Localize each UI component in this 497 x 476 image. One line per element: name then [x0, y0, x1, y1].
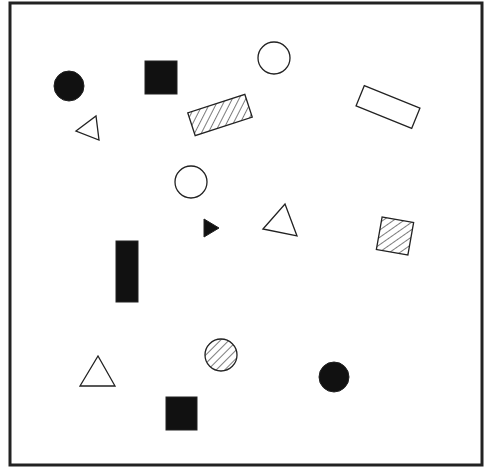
- circle-hatched-1-shape: [205, 339, 237, 371]
- rect-outline-1-shape: [356, 86, 420, 129]
- square-solid-2-shape: [166, 397, 197, 430]
- rect-solid-tall-1-shape: [116, 241, 138, 302]
- rect-hatched-1-shape: [188, 94, 252, 135]
- circle-solid-1-shape: [54, 71, 84, 101]
- circle-solid-2-shape: [319, 362, 349, 392]
- circle-outline-2-shape: [175, 166, 207, 198]
- triangle-solid-1-shape: [204, 219, 219, 237]
- square-hatched-1-shape: [376, 217, 413, 255]
- triangle-outline-3-shape: [80, 356, 115, 386]
- square-solid-1-shape: [145, 61, 177, 94]
- shapes-layer: [54, 42, 420, 430]
- shapes-diagram: [0, 0, 497, 476]
- circle-outline-1-shape: [258, 42, 290, 74]
- triangle-outline-2-shape: [263, 204, 297, 236]
- triangle-outline-1-shape: [76, 116, 99, 140]
